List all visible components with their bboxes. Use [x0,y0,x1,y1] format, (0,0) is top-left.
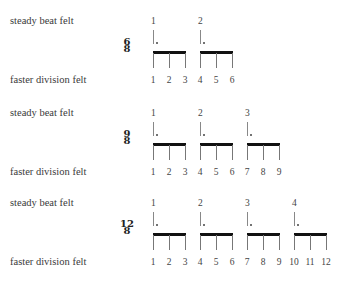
eighth-note-stem [200,145,201,160]
division-number: 8 [255,167,271,177]
division-number: 3 [177,75,193,85]
augmentation-dot [203,42,205,44]
division-number: 1 [145,167,161,177]
eighth-note-stem [169,53,170,68]
beat-number: 1 [151,108,156,118]
eighth-note-stem [247,235,248,250]
dotted-quarter-stem [200,212,201,226]
division-number: 1 [145,257,161,267]
division-number: 3 [177,167,193,177]
dotted-quarter-stem [153,212,154,226]
division-number: 12 [318,257,334,267]
dotted-quarter-stem [200,122,201,136]
division-number: 6 [224,257,240,267]
time-signature: 128 [119,220,135,234]
augmentation-dot [297,224,299,226]
eighth-note-stem [169,235,170,250]
division-number: 1 [145,75,161,85]
beat-number: 3 [245,198,250,208]
eighth-note-stem [216,235,217,250]
eighth-note-stem [232,235,233,250]
division-number: 7 [239,167,255,177]
steady-beat-label: steady beat felt [10,197,74,208]
time-signature-denominator: 8 [119,45,135,52]
faster-division-label: faster division felt [10,74,86,85]
division-number: 4 [192,75,208,85]
eighth-note-stem [216,145,217,160]
division-number: 4 [192,257,208,267]
augmentation-dot [250,224,252,226]
division-number: 4 [192,167,208,177]
dotted-quarter-stem [247,122,248,136]
division-number: 11 [302,257,318,267]
eighth-note-stem [200,235,201,250]
eighth-note-stem [185,235,186,250]
dotted-quarter-stem [247,212,248,226]
division-number: 2 [161,257,177,267]
eighth-note-stem [153,235,154,250]
division-number: 5 [208,167,224,177]
eighth-note-stem [200,53,201,68]
time-signature: 98 [119,130,135,144]
eighth-note-stem [185,53,186,68]
steady-beat-label: steady beat felt [10,107,74,118]
faster-division-label: faster division felt [10,166,86,177]
division-number: 10 [286,257,302,267]
beat-number: 2 [198,198,203,208]
dotted-quarter-stem [200,30,201,44]
augmentation-dot [203,134,205,136]
eighth-note-stem [294,235,295,250]
time-signature-denominator: 8 [119,137,135,144]
eighth-note-stem [169,145,170,160]
division-number: 5 [208,257,224,267]
eighth-note-stem [326,235,327,250]
eighth-note-stem [232,53,233,68]
division-number: 2 [161,75,177,85]
division-number: 6 [224,167,240,177]
eighth-note-stem [310,235,311,250]
dotted-quarter-stem [153,122,154,136]
dotted-quarter-stem [153,30,154,44]
augmentation-dot [250,134,252,136]
eighth-note-stem [247,145,248,160]
augmentation-dot [203,224,205,226]
beat-number: 1 [151,198,156,208]
division-number: 5 [208,75,224,85]
eighth-note-stem [153,145,154,160]
division-number: 9 [271,167,287,177]
division-number: 8 [255,257,271,267]
eighth-note-stem [153,53,154,68]
beat-number: 3 [245,108,250,118]
eighth-note-stem [279,235,280,250]
steady-beat-label: steady beat felt [10,15,74,26]
eighth-note-stem [263,145,264,160]
beat-number: 2 [198,16,203,26]
division-number: 3 [177,257,193,267]
augmentation-dot [156,42,158,44]
eighth-note-stem [216,53,217,68]
eighth-note-stem [279,145,280,160]
dotted-quarter-stem [294,212,295,226]
division-number: 9 [271,257,287,267]
augmentation-dot [156,224,158,226]
beat-number: 2 [198,108,203,118]
beat-number: 1 [151,16,156,26]
eighth-note-stem [232,145,233,160]
division-number: 7 [239,257,255,267]
eighth-note-stem [263,235,264,250]
faster-division-label: faster division felt [10,256,86,267]
division-number: 2 [161,167,177,177]
beat-number: 4 [292,198,297,208]
division-number: 6 [224,75,240,85]
time-signature: 68 [119,38,135,52]
augmentation-dot [156,134,158,136]
eighth-note-stem [185,145,186,160]
